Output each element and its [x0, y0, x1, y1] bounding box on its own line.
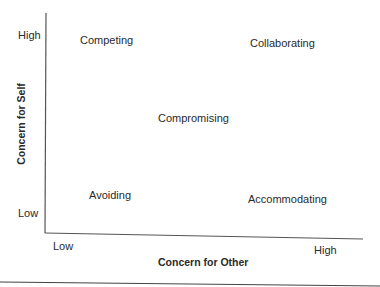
y-axis-low-label: Low — [18, 207, 38, 219]
y-axis-high-label: High — [18, 29, 41, 41]
style-collaborating: Collaborating — [250, 37, 315, 49]
style-competing: Competing — [80, 34, 133, 46]
style-compromising: Compromising — [158, 112, 229, 124]
x-axis-line — [45, 233, 363, 239]
style-avoiding: Avoiding — [89, 189, 131, 201]
bottom-rule — [0, 282, 380, 286]
style-accommodating: Accommodating — [248, 193, 327, 205]
y-axis-line — [45, 13, 46, 233]
x-axis-high-label: High — [314, 244, 337, 256]
x-axis-title: Concern for Other — [158, 256, 248, 268]
y-axis-title: Concern for Self — [15, 78, 27, 170]
x-axis-low-label: Low — [53, 240, 73, 252]
